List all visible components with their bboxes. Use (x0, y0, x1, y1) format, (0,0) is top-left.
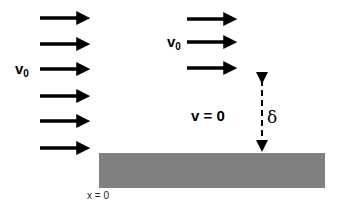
free-stream-velocity-label-left: v0 (15, 60, 29, 79)
no-slip-velocity-label: v = 0 (191, 107, 225, 124)
boundary-layer-thickness-label: δ (267, 107, 277, 127)
diagram-graphics (0, 0, 337, 209)
subscript-zero: 0 (23, 68, 29, 79)
flat-plate (99, 153, 325, 188)
free-stream-arrows-right (187, 19, 232, 68)
boundary-layer-diagram: v0 v0 v = 0 δ x = 0 (0, 0, 337, 209)
free-stream-arrows-left (40, 18, 85, 148)
subscript-zero: 0 (175, 41, 181, 52)
leading-edge-label: x = 0 (87, 190, 109, 201)
free-stream-velocity-label-right: v0 (167, 33, 181, 52)
